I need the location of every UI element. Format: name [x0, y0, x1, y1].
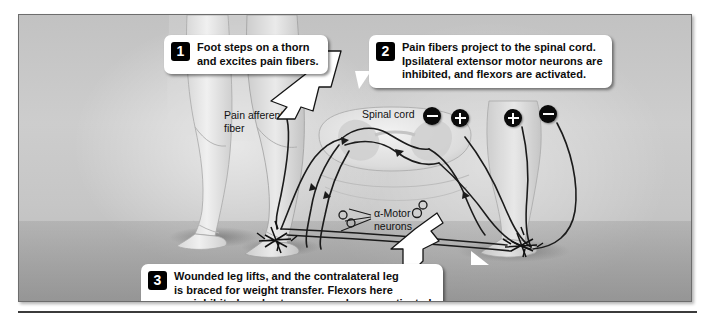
callout-step-2: 2 Pain fibers project to the spinal cord… — [369, 35, 612, 88]
callout-2-text: Pain fibers project to the spinal cord. … — [402, 41, 603, 82]
screenshot-root: Pain afferent fiber Spinal cord α-Motor … — [0, 0, 708, 318]
callout-step-3: 3 Wounded leg lifts, and the contralater… — [141, 264, 443, 302]
callout3-tail — [471, 251, 489, 265]
arrow-to-contralateral-foot — [391, 213, 443, 265]
callout-step-1: 1 Foot steps on a thorn and excites pain… — [164, 35, 328, 74]
callout-3-text: Wounded leg lifts, and the contralateral… — [174, 270, 434, 302]
callout-2-badge: 2 — [376, 42, 395, 61]
bottom-rule — [18, 311, 697, 313]
callout-1-text: Foot steps on a thorn and excites pain f… — [197, 41, 319, 68]
figure-panel: Pain afferent fiber Spinal cord α-Motor … — [18, 14, 692, 302]
callout-1-badge: 1 — [171, 42, 190, 61]
callout-3-badge: 3 — [148, 271, 167, 290]
